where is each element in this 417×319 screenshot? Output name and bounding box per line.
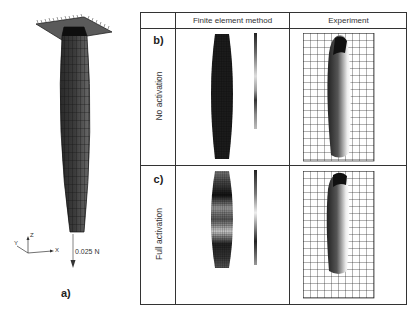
column-divider <box>289 13 290 304</box>
fem-full-activation-plot <box>209 168 259 278</box>
row-b-letter: b) <box>141 34 176 46</box>
row-divider <box>141 165 406 166</box>
comparison-table: Finite element method Experiment b) No a… <box>140 12 407 305</box>
z-axis-label: Z <box>30 232 34 238</box>
column-header-fem: Finite element method <box>176 13 289 29</box>
x-axis-label: X <box>55 247 59 253</box>
panel-a-letter: a) <box>61 287 71 299</box>
muscle-mesh-illustration <box>0 0 135 319</box>
row-c-label: Full activation <box>154 204 164 264</box>
panel-a-muscle-model: Z X Y 0.025 N a) <box>0 0 135 319</box>
experiment-no-activation-image <box>303 33 395 163</box>
y-axis-label: Y <box>14 240 18 246</box>
force-label: 0.025 N <box>75 248 100 255</box>
fem-no-activation-plot <box>209 31 259 166</box>
row-c-letter: c) <box>141 173 176 185</box>
column-divider <box>175 13 176 304</box>
column-header-experiment: Experiment <box>290 13 407 29</box>
row-b-label: No activation <box>154 66 164 126</box>
experiment-full-activation-image <box>303 171 395 301</box>
